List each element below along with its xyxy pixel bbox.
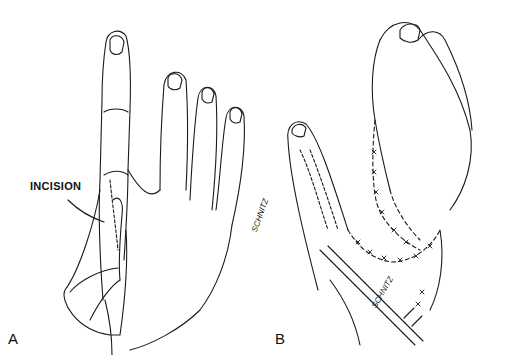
incision-label: INCISION [30, 180, 81, 192]
hand-surgery-illustration [0, 0, 505, 355]
suture-marks [356, 150, 432, 306]
panel-label-a: A [8, 330, 18, 347]
panel-a-hand [64, 31, 244, 355]
panel-label-b: B [275, 330, 285, 347]
